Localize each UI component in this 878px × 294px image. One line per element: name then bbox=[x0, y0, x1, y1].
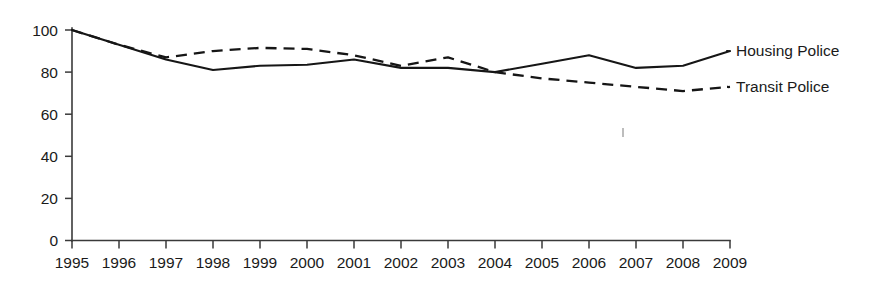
x-tick-label: 1998 bbox=[196, 254, 230, 271]
scan-artifact bbox=[622, 128, 624, 137]
x-tick-label: 1997 bbox=[149, 254, 183, 271]
y-tick-marks bbox=[65, 30, 72, 241]
legend-label-transit-police: Transit Police bbox=[736, 78, 829, 95]
x-tick-marks bbox=[72, 241, 730, 249]
legend: Housing Police Transit Police bbox=[727, 42, 839, 95]
x-tick-label: 1996 bbox=[102, 254, 136, 271]
y-tick-label: 100 bbox=[32, 22, 58, 39]
x-tick-label: 2006 bbox=[572, 254, 606, 271]
y-axis-tick-labels: 020406080100 bbox=[32, 22, 58, 250]
line-chart: 020406080100 199519961997199819992000200… bbox=[0, 0, 878, 294]
x-tick-label: 2004 bbox=[478, 254, 513, 271]
y-tick-label: 80 bbox=[41, 64, 59, 81]
y-tick-label: 40 bbox=[41, 148, 59, 165]
x-axis-tick-labels: 1995199619971998199920002001200220032004… bbox=[55, 254, 747, 271]
x-tick-label: 2009 bbox=[713, 254, 747, 271]
series-line-housing-police bbox=[72, 30, 730, 72]
x-tick-label: 2005 bbox=[525, 254, 559, 271]
x-axis bbox=[72, 241, 730, 249]
x-tick-label: 2003 bbox=[431, 254, 465, 271]
y-tick-label: 20 bbox=[41, 190, 59, 207]
y-tick-label: 0 bbox=[49, 232, 58, 249]
x-tick-label: 2002 bbox=[384, 254, 418, 271]
y-axis bbox=[65, 28, 72, 241]
legend-label-housing-police: Housing Police bbox=[736, 42, 839, 59]
x-tick-label: 2008 bbox=[666, 254, 700, 271]
chart-canvas: 020406080100 199519961997199819992000200… bbox=[0, 0, 878, 294]
y-tick-label: 60 bbox=[41, 106, 59, 123]
x-tick-label: 2001 bbox=[337, 254, 371, 271]
x-tick-label: 2000 bbox=[290, 254, 325, 271]
x-tick-label: 1999 bbox=[243, 254, 277, 271]
x-tick-label: 1995 bbox=[55, 254, 89, 271]
x-tick-label: 2007 bbox=[619, 254, 653, 271]
